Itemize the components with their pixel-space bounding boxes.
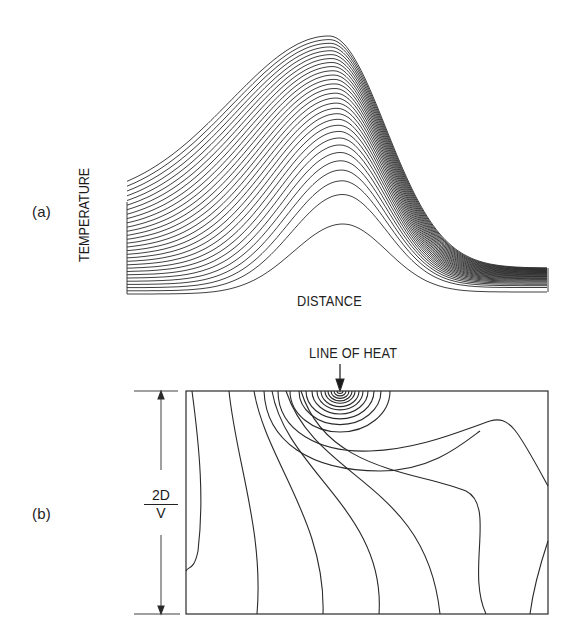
- isotherm-arc: [325, 391, 355, 403]
- temperature-curve: [127, 71, 547, 272]
- temperature-curve: [127, 125, 547, 278]
- temperature-curve: [127, 98, 547, 275]
- figure-canvas: [0, 0, 562, 638]
- isotherm-contour: [301, 391, 486, 614]
- heat-arrow-down-icon: [336, 379, 344, 391]
- dimension-denominator: V: [144, 505, 178, 521]
- isotherm-contour: [229, 391, 258, 614]
- temperature-curve: [127, 55, 547, 271]
- isotherm-contour: [272, 391, 379, 614]
- distance-axis-label: DISTANCE: [297, 292, 362, 309]
- temperature-curve: [127, 59, 547, 271]
- isotherm-arc: [306, 391, 374, 419]
- isotherm-panel: [134, 364, 548, 614]
- temperature-curve: [127, 67, 547, 272]
- dimension-arrow-up-icon: [158, 391, 164, 399]
- section-box: [186, 391, 548, 614]
- temperature-curve: [127, 119, 547, 278]
- isotherm-contour: [254, 391, 323, 614]
- temperature-axis-label: TEMPERATURE: [76, 168, 92, 262]
- isotherm-contour: [278, 391, 490, 451]
- panel-b-label: (b): [32, 505, 51, 522]
- temperature-curve: [127, 43, 547, 268]
- isotherm-arc: [312, 391, 368, 414]
- temperature-curve: [127, 138, 547, 280]
- temperature-curve: [127, 75, 547, 273]
- temperature-curve: [127, 47, 547, 269]
- temperature-curve: [127, 93, 547, 275]
- isotherm-arc: [290, 391, 390, 432]
- panel-a-label: (a): [32, 203, 51, 220]
- isotherm-contour: [490, 420, 548, 486]
- isotherm-contour: [530, 541, 548, 614]
- temperature-curve: [127, 51, 547, 270]
- dimension-numerator: 2D: [144, 487, 178, 505]
- temperature-curves: [127, 36, 548, 294]
- line-of-heat-label: LINE OF HEAT: [309, 344, 397, 361]
- temperature-curve: [127, 145, 547, 281]
- isotherm-contour: [186, 391, 201, 571]
- dimension-arrow-down-icon: [158, 606, 164, 614]
- isotherm-contour: [286, 391, 440, 614]
- dimension-label-2d-over-v: 2D V: [144, 487, 178, 521]
- temperature-curve: [127, 108, 547, 276]
